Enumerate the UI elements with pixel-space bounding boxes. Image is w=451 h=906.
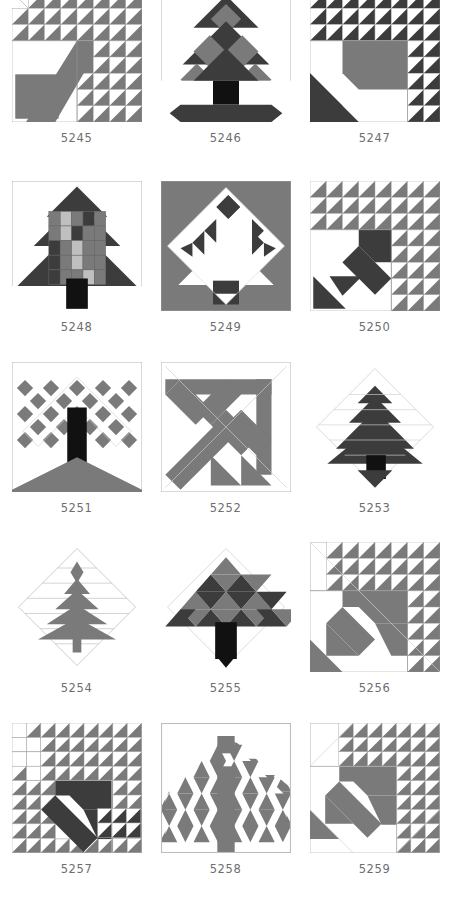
block-cell-5248[interactable]: 5248 <box>2 181 151 362</box>
block-cell-5257[interactable]: 5257 <box>2 723 151 904</box>
block-caption: 5246 <box>210 131 242 145</box>
tree-block-5247[interactable] <box>310 0 440 122</box>
block-caption: 5250 <box>359 320 391 334</box>
tree-block-5246[interactable] <box>161 0 291 122</box>
block-caption: 5254 <box>61 681 93 695</box>
block-cell-5249[interactable]: 5249 <box>151 181 300 362</box>
tree-block-5249[interactable] <box>161 181 291 311</box>
tree-block-5257[interactable] <box>12 723 142 853</box>
tree-block-5255[interactable] <box>161 542 291 672</box>
tree-block-5245[interactable] <box>12 0 142 122</box>
block-cell-5255[interactable]: 5255 <box>151 542 300 723</box>
block-cell-5251[interactable]: 5251 <box>2 362 151 543</box>
block-cell-5245[interactable]: 5245 <box>2 0 151 181</box>
tree-block-5256[interactable] <box>310 542 440 672</box>
block-caption: 5251 <box>61 501 93 515</box>
tree-block-5258[interactable] <box>161 723 291 853</box>
tree-block-5248[interactable] <box>12 181 142 311</box>
tree-block-5253[interactable] <box>310 362 440 492</box>
tree-block-5254[interactable] <box>12 542 142 672</box>
block-cell-5247[interactable]: 5247 <box>300 0 449 181</box>
tree-block-5252[interactable] <box>161 362 291 492</box>
tree-block-5251[interactable] <box>12 362 142 492</box>
block-caption: 5253 <box>359 501 391 515</box>
block-caption: 5247 <box>359 131 391 145</box>
block-cell-5258[interactable]: 5258 <box>151 723 300 904</box>
block-cell-5253[interactable]: 5253 <box>300 362 449 543</box>
block-cell-5252[interactable]: 5252 <box>151 362 300 543</box>
block-caption: 5252 <box>210 501 242 515</box>
block-cell-5250[interactable]: 5250 <box>300 181 449 362</box>
tree-block-5259[interactable] <box>310 723 440 853</box>
block-caption: 5248 <box>61 320 93 334</box>
block-caption: 5245 <box>61 131 93 145</box>
block-caption: 5256 <box>359 681 391 695</box>
block-cell-5259[interactable]: 5259 <box>300 723 449 904</box>
tree-block-5250[interactable] <box>310 181 440 311</box>
block-caption: 5255 <box>210 681 242 695</box>
block-cell-5246[interactable]: 5246 <box>151 0 300 181</box>
block-cell-5256[interactable]: 5256 <box>300 542 449 723</box>
block-cell-5254[interactable]: 5254 <box>2 542 151 723</box>
block-caption: 5249 <box>210 320 242 334</box>
block-caption: 5259 <box>359 862 391 876</box>
pattern-plate-grid: 5245 5246 5247 5248 <box>0 0 451 906</box>
block-caption: 5258 <box>210 862 242 876</box>
block-caption: 5257 <box>61 862 93 876</box>
